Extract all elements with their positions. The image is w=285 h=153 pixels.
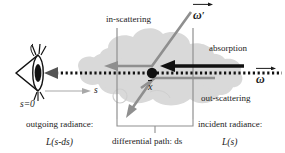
vector-arrow-icon [193,2,213,6]
vector-arrow-icon [256,66,276,70]
x-overbar [148,80,152,81]
outgoing-radiance-value: L(s-ds) [46,138,73,148]
omega-label: ω [256,70,265,86]
figure-root: in-scattering ω′ absorption ω out-scatte… [0,0,285,153]
differential-path-label: differential path: ds [112,137,182,146]
absorption-label: absorption [209,44,247,53]
eye-icon [16,44,46,101]
omega-prime-label: ω′ [193,6,205,22]
dimension-bracket-icon [117,119,193,133]
incident-radiance-value: L(s) [222,138,237,148]
point-x-glyph: x [148,81,152,92]
incident-radiance-label: incident radiance: [198,120,262,129]
omega-prime-prime-mark: ′ [202,10,205,21]
s-zero-label: s=0 [20,100,35,110]
outgoing-radiance-label: outgoing radiance: [26,120,93,129]
s-axis-arrow-icon [45,88,91,94]
in-scattering-label: in-scattering [106,15,151,24]
omega-glyph: ω [256,72,265,86]
omega-prime-glyph: ω [193,8,202,22]
out-scattering-label: out-scattering [201,94,250,103]
point-x-label: x [148,82,152,92]
scatter-point-dot [147,68,157,78]
s-axis-label: s [94,86,98,96]
